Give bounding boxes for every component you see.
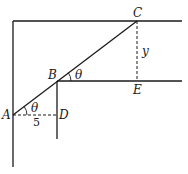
label-E: E bbox=[132, 83, 142, 97]
angle-label-B: θ bbox=[75, 68, 83, 82]
label-A: A bbox=[1, 108, 11, 122]
segment-CE-label: y bbox=[141, 44, 149, 58]
label-D: D bbox=[58, 108, 69, 122]
angle-label-A: θ bbox=[31, 101, 39, 115]
angle-arc-B bbox=[68, 73, 71, 81]
angle-arc-A bbox=[24, 107, 27, 115]
label-B: B bbox=[47, 68, 57, 82]
label-C: C bbox=[133, 6, 142, 20]
segment-AD-label: 5 bbox=[33, 116, 40, 129]
geometry-diagram: A B C D E θ θ 5 y bbox=[0, 0, 188, 174]
